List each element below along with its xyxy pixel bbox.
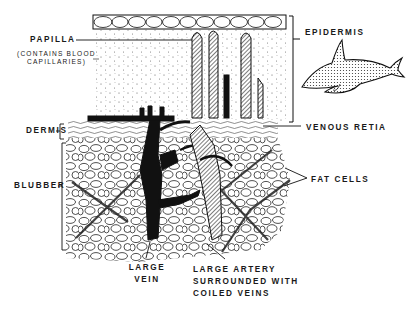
large-artery-label-line-3: COILED VEINS (193, 288, 270, 299)
venous-retia-label: VENOUS RETIA (306, 122, 387, 133)
fat-cells-label: FAT CELLS (311, 174, 369, 185)
skin-cross-section-diagram: PAPILLA (CONTAINS BLOOD CAPILLARIES) DER… (0, 0, 415, 309)
epidermis-label: EPIDERMIS (305, 27, 364, 38)
large-vein-label-line-2: VEIN (121, 274, 173, 285)
epidermis-stipple (93, 29, 286, 122)
large-artery-label-line-1: LARGE ARTERY (193, 264, 276, 275)
papilla-note-line-2: CAPILLARIES) (27, 56, 86, 67)
blubber-label: BLUBBER (14, 180, 65, 191)
diagram-artwork (0, 0, 415, 309)
large-vein-label-line-1: LARGE (121, 262, 173, 273)
dolphin-icon (302, 40, 404, 93)
dermis-label: DERMIS (26, 125, 67, 136)
epidermis-cell-layer (93, 15, 286, 29)
papilla-label: PAPILLA (30, 34, 76, 45)
large-artery-label-line-2: SURROUNDED WITH (193, 276, 299, 287)
